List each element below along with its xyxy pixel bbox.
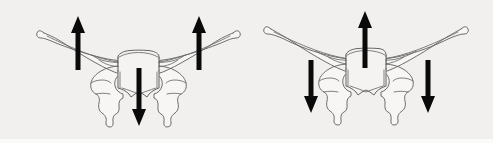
right-greater-wing-outline-2 — [381, 27, 468, 125]
right-sphenoid-diagram — [264, 11, 469, 125]
left-lesser-wing-detail-2 — [274, 32, 346, 59]
bottom-margin-strip — [0, 139, 493, 143]
left-wing-down-arrow — [304, 60, 318, 113]
figure-canvas — [0, 0, 493, 143]
sphenoid-figure-svg — [0, 0, 493, 143]
right-wing-down-arrow — [421, 60, 435, 113]
left-wing-up-arrow — [71, 16, 85, 70]
right-wing-up-arrow — [192, 16, 206, 70]
left-sphenoid-diagram — [37, 16, 241, 127]
left-greater-wing-outline-2 — [264, 27, 351, 125]
right-lesser-wing-detail-2 — [386, 32, 458, 59]
